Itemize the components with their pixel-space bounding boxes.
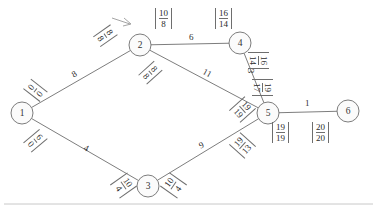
node-4[interactable]: 4 [229,32,251,54]
incoming-arrow-icon [112,18,131,26]
node-label-6: 6 [346,106,351,116]
annotation-node-2-top-latest: 8 [159,19,168,29]
edge-weight-5-6: 1 [305,98,310,108]
node-1[interactable]: 1 [11,102,33,124]
edges-layer [32,18,337,180]
annotation-node-2-lower-latest: 8 [141,71,151,81]
annotation-edge-4-5-upper-latest: 14 [248,56,258,65]
annotation-node-5-bottom-latest: 19 [276,133,285,143]
annotation-edge-4-5-lower-earliest: 19 [262,83,273,92]
annotation-edge-4-5-upper: 1614 [248,52,269,69]
node-6[interactable]: 6 [337,100,359,122]
diagram-canvas: 123456 006088108881614161419171919191310… [0,0,377,217]
nodes-layer: 123456 [11,32,359,197]
annotation-node-5-bottom-earliest: 19 [276,122,285,133]
node-3[interactable]: 3 [137,175,159,197]
node-label-2: 2 [138,40,143,50]
annotation-node-2-incoming-latest: 8 [95,34,106,43]
annotation-node-6-bottom: 2020 [312,122,329,143]
node-label-4: 4 [238,38,243,48]
annotation-node-4-top-latest: 14 [219,19,228,29]
edge-weight-2-4: 6 [189,32,194,42]
node-label-3: 3 [146,181,151,191]
annotation-node-2-top-earliest: 10 [159,8,168,19]
node-5[interactable]: 5 [257,102,279,124]
annotation-node-5-bottom: 1919 [272,122,289,143]
annotation-node-6-bottom-latest: 20 [316,133,325,143]
annotation-node-4-top: 1614 [215,8,232,29]
node-2[interactable]: 2 [129,34,151,56]
annotation-edge-4-5-lower-latest: 17 [252,83,262,92]
annotation-node-1-lower-latest: 0 [26,139,37,149]
edge-1-2 [32,50,131,107]
edge-2-4 [151,43,229,45]
annotation-node-4-top-earliest: 16 [219,8,228,19]
annotation-node-6-bottom-earliest: 20 [316,122,325,133]
annotation-edge-4-5-lower: 1917 [252,79,273,96]
annotation-node-2-top: 108 [155,8,172,29]
node-label-1: 1 [20,108,25,118]
edge-weight-4-5: 3 [246,69,256,74]
node-label-5: 5 [266,108,271,118]
edge-5-6 [279,111,337,112]
annotation-edge-4-5-upper-earliest: 16 [258,56,269,65]
